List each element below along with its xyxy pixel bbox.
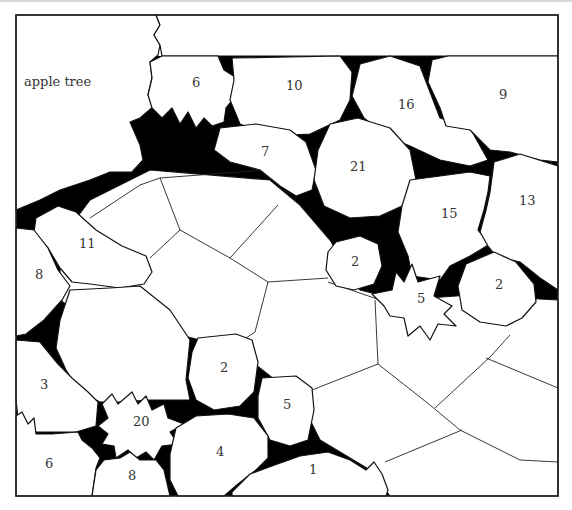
label-plant-15: 15 [441,206,458,221]
label-plant-4: 4 [216,444,224,459]
label-plant-6-top: 6 [192,75,200,90]
top-strip [154,15,558,56]
label-plant-2-lower: 2 [220,360,228,375]
label-plant-13: 13 [519,193,536,208]
label-plant-16: 16 [398,97,415,112]
label-plant-21: 21 [350,159,367,174]
label-plant-6-bottom: 6 [45,456,53,471]
label-apple-tree: apple tree [24,74,92,89]
label-plant-7: 7 [261,144,269,159]
label-plant-8-left: 8 [35,267,43,282]
label-plant-9: 9 [499,87,507,102]
label-plant-10: 10 [286,78,303,93]
label-plant-5-star: 5 [417,291,425,306]
label-plant-11: 11 [79,236,96,251]
label-plant-20: 20 [133,414,150,429]
label-plant-2-mid: 2 [351,254,359,269]
label-plant-1: 1 [309,462,317,477]
label-plant-3: 3 [40,377,48,392]
label-plant-8-bottom: 8 [128,468,136,483]
garden-plan-diagram: apple tree 6 10 16 9 7 21 15 13 11 8 2 5… [0,0,572,510]
label-plant-2-right: 2 [495,277,503,292]
label-plant-5-lower: 5 [283,397,291,412]
